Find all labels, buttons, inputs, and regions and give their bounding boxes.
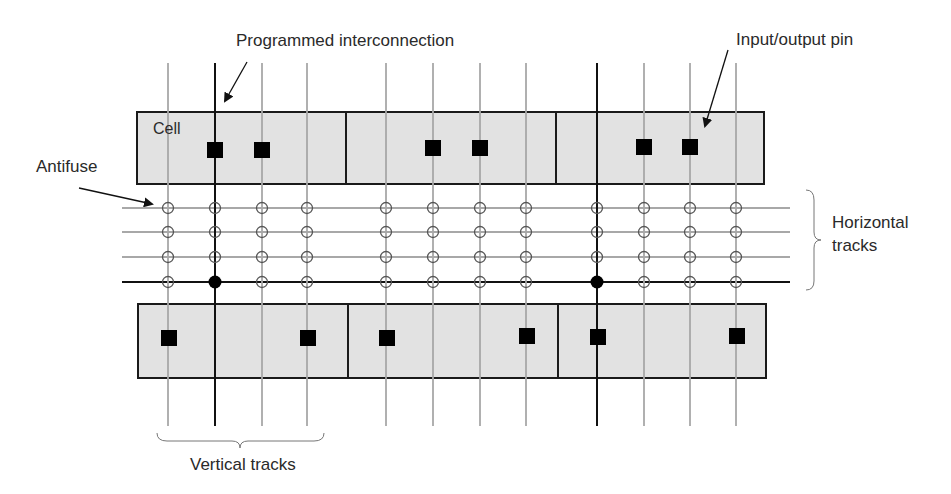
io-pin-icon — [379, 330, 395, 346]
antifuse-grid — [163, 203, 742, 289]
io-pin-icon — [590, 329, 606, 345]
io-pin-icon — [519, 328, 535, 344]
programmed-antifuse-icon — [209, 276, 222, 289]
horizontal-tracks-label-line1: Horizontal — [832, 213, 909, 233]
programmed-interconnection-arrow-icon — [225, 62, 247, 101]
io-pin-icon — [472, 140, 488, 156]
io-pin-icon — [207, 142, 223, 158]
horizontal-tracks-brace-icon — [806, 190, 821, 290]
cell-label: Cell — [153, 119, 181, 139]
antifuse-arrow-icon — [79, 188, 152, 204]
io-pin-icon — [636, 139, 652, 155]
io-pin-icon — [300, 330, 316, 346]
top-cell-row — [137, 112, 764, 184]
bottom-cell-row — [138, 304, 766, 378]
programmed-interconnection-label: Programmed interconnection — [236, 31, 454, 51]
vertical-tracks-label: Vertical tracks — [190, 455, 296, 475]
horizontal-tracks-label-line2: tracks — [832, 236, 877, 256]
io-pin-icon — [729, 328, 745, 344]
vertical-tracks-brace-icon — [157, 433, 324, 448]
input-output-pin-label: Input/output pin — [736, 30, 853, 50]
io-pin-icon — [161, 330, 177, 346]
programmed-antifuse-icon — [591, 276, 604, 289]
io-pin-icon — [425, 140, 441, 156]
io-pin-icon — [682, 139, 698, 155]
logic-cell — [346, 112, 556, 184]
antifuse-label: Antifuse — [36, 157, 97, 177]
io-pin-icon — [254, 142, 270, 158]
antifuse-fpga-diagram — [0, 0, 951, 494]
logic-cell — [556, 112, 764, 184]
